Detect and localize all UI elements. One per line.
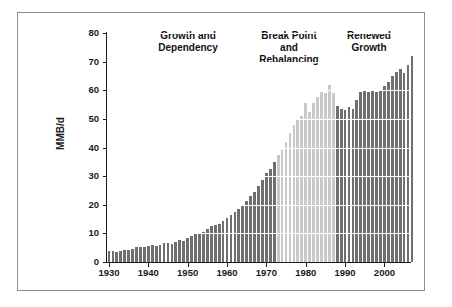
bar	[163, 243, 166, 262]
bar	[344, 110, 347, 262]
bar	[399, 69, 402, 262]
bar	[391, 76, 394, 262]
bar	[241, 205, 244, 262]
bar	[289, 133, 292, 262]
y-tick-label: 20	[73, 200, 99, 210]
bar	[108, 251, 111, 262]
plot-area	[107, 33, 410, 262]
bar	[218, 224, 221, 262]
bar	[167, 243, 170, 262]
bar	[253, 192, 256, 262]
bar	[245, 201, 248, 262]
bar	[312, 103, 315, 262]
bar	[115, 252, 118, 262]
bar	[190, 236, 193, 262]
bar	[139, 247, 142, 262]
bar	[147, 246, 150, 262]
bar	[127, 250, 130, 262]
bar	[336, 106, 339, 262]
bar	[214, 225, 217, 262]
y-tick-label: 0	[73, 257, 99, 267]
bar	[296, 119, 299, 262]
x-tick-label: 1990	[325, 268, 365, 278]
bar	[411, 56, 414, 262]
bar	[316, 97, 319, 262]
bar	[131, 249, 134, 262]
y-tick-label: 10	[73, 228, 99, 238]
x-tick-mark	[306, 263, 307, 267]
bar	[234, 212, 237, 262]
bar	[198, 233, 201, 262]
bar	[143, 247, 146, 262]
bar	[135, 247, 138, 262]
x-axis-line	[106, 262, 411, 263]
chart-figure: MMB/d 01020304050607080 1930194019501960…	[0, 0, 452, 307]
x-tick-label: 1950	[168, 268, 208, 278]
x-tick-mark	[345, 263, 346, 267]
bar	[285, 142, 288, 262]
bar	[383, 86, 386, 262]
bar	[119, 251, 122, 262]
x-tick-mark	[384, 263, 385, 267]
x-tick-label: 1970	[246, 268, 286, 278]
bar	[395, 72, 398, 262]
bar	[407, 65, 410, 263]
bar	[265, 173, 268, 262]
bar	[186, 238, 189, 262]
x-tick-mark	[109, 263, 110, 267]
annotation-renewed-growth: Renewed Growth	[331, 30, 407, 54]
y-tick-label: 60	[73, 85, 99, 95]
bar	[308, 112, 311, 262]
y-tick-label: 80	[73, 28, 99, 38]
bar	[159, 245, 162, 262]
bar	[249, 196, 252, 262]
bar	[174, 242, 177, 262]
bar	[237, 209, 240, 262]
x-tick-mark	[148, 263, 149, 267]
bar	[281, 150, 284, 262]
bar	[371, 90, 374, 262]
bar	[230, 215, 233, 262]
bar	[171, 244, 174, 262]
bar	[340, 109, 343, 262]
x-tick-label: 1980	[286, 268, 326, 278]
bar	[363, 90, 366, 262]
bar	[112, 251, 115, 262]
x-tick-mark	[266, 263, 267, 267]
bar	[178, 240, 181, 262]
x-tick-mark	[227, 263, 228, 267]
bar	[375, 92, 378, 262]
bar	[379, 90, 382, 262]
x-tick-label: 2000	[364, 268, 404, 278]
bar	[300, 116, 303, 262]
bar	[293, 125, 296, 262]
bar	[355, 100, 358, 262]
bar	[328, 85, 331, 262]
y-tick-label: 30	[73, 171, 99, 181]
bar	[403, 73, 406, 262]
bar	[257, 186, 260, 262]
bar	[332, 93, 335, 262]
bar	[359, 92, 362, 262]
annotation-break-point-and-rebalancing: Break Point and Rebalancing	[249, 30, 329, 67]
x-tick-label: 1930	[89, 268, 129, 278]
y-tick-label: 70	[73, 57, 99, 67]
bar	[352, 109, 355, 262]
bar	[194, 234, 197, 262]
bar	[206, 229, 209, 262]
bar	[155, 246, 158, 262]
bar	[277, 155, 280, 262]
bar	[182, 241, 185, 262]
bar	[387, 82, 390, 262]
bar	[123, 250, 126, 262]
bar	[273, 162, 276, 262]
y-tick-label: 50	[73, 114, 99, 124]
bar	[324, 93, 327, 262]
y-tick-label: 40	[73, 143, 99, 153]
bar	[269, 169, 272, 262]
x-tick-label: 1940	[128, 268, 168, 278]
x-tick-mark	[188, 263, 189, 267]
bar	[261, 180, 264, 262]
x-tick-label: 1960	[207, 268, 247, 278]
annotation-growth-and-dependency: Growth and Dependency	[129, 30, 247, 54]
